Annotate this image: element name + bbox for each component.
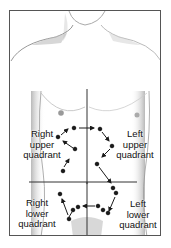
label-line: Right (22, 129, 62, 140)
label-right-upper-quadrant: Right upper quadrant (22, 129, 62, 161)
label-line: Left (114, 199, 161, 210)
label-left-upper-quadrant: Left upper quadrant (110, 129, 160, 161)
label-right-lower-quadrant: Right lower quadrant (15, 198, 59, 230)
label-line: Left (110, 129, 160, 140)
left-nipple (135, 113, 140, 118)
label-line: quadrant (114, 220, 161, 231)
neck-outline (69, 11, 105, 25)
label-left-lower-quadrant: Left lower quadrant (114, 199, 161, 231)
label-line: quadrant (22, 150, 62, 161)
right-nipple (58, 110, 64, 116)
label-line: quadrant (110, 150, 160, 161)
label-line: quadrant (15, 219, 59, 230)
label-line: Right (15, 198, 59, 209)
diagram-frame: Right upper quadrant Left upper quadrant… (9, 10, 161, 236)
